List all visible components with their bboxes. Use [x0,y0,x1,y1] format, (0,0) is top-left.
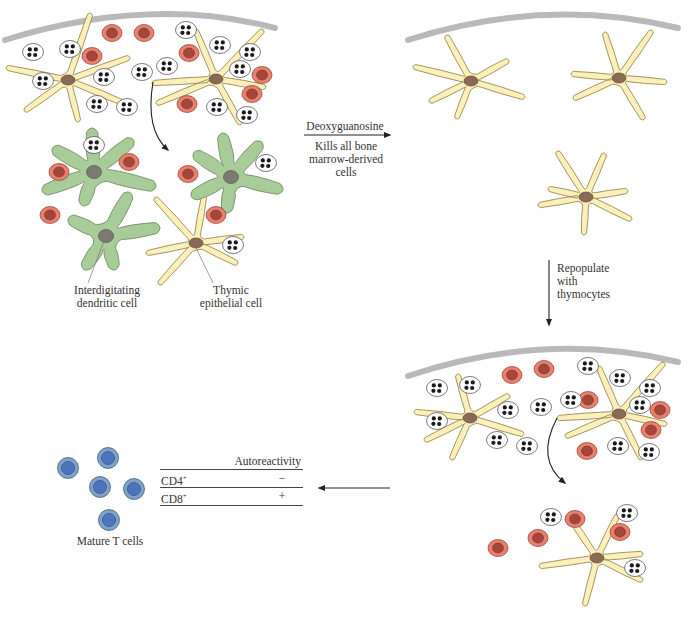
repopulate-note-line1: Repopulate [557,262,647,275]
red-cell [488,540,508,557]
epithelial-cell-label-line1: Thymic [186,284,276,297]
cell-type: CD4+ [160,470,241,487]
thymocyte [617,505,638,522]
autoreactivity-value: + [241,488,303,505]
red-cell [565,511,585,528]
nucleus [579,192,593,202]
thymocyte [578,358,599,375]
thymocyte [237,107,258,124]
thymocyte [640,380,661,397]
thymocyte [517,438,538,455]
dendritic-cell-label-line1: Interdigitating [52,284,162,297]
nucleus [224,171,239,184]
nucleus [87,166,102,179]
thymic-epithelial-cell [538,151,632,235]
thymocyte [630,397,651,414]
thymocyte [608,438,629,455]
thymocyte [639,444,660,461]
thymocyte [427,380,448,397]
red-cell [252,67,272,84]
red-cell [641,422,661,439]
red-cell [610,524,630,541]
thymocyte [541,509,562,526]
red-cell [49,164,69,181]
deoxyguanosine-label: Deoxyguanosine [300,120,390,133]
kills-note-line1: Kills all bone [296,140,396,153]
repopulate-note-line2: with [557,275,647,288]
thymocyte [87,96,108,113]
thymocyte [210,37,231,54]
red-cell [528,530,548,547]
kills-note-line3: cells [296,166,396,179]
mature-t-cell [98,448,119,469]
thymic-epithelial-cell [413,35,525,119]
red-cell [102,25,122,42]
red-cell [502,367,522,384]
nucleus [590,553,604,563]
thymocyte [240,44,261,61]
thymocyte [207,99,228,116]
thymocyte [625,560,646,577]
thymocyte [157,58,178,75]
table-row-cd4: CD4+ − [160,469,303,487]
curved-arrow-bottom [548,418,565,483]
thymocyte [531,399,552,416]
thymocyte [84,137,105,154]
mature-t-cell-group [58,448,145,531]
thymocyte [223,237,244,254]
red-cell [534,361,554,378]
thymocyte [460,377,481,394]
kills-cells-note: Kills all bone marrow-derived cells [296,140,396,179]
red-cell [242,86,262,103]
red-cell [40,207,60,224]
mature-t-cell [90,477,111,498]
repopulate-note: Repopulate with thymocytes [557,262,647,301]
red-cell [179,45,199,62]
nucleus [463,413,477,423]
autoreactivity-value: − [241,470,303,487]
thymocyte [487,432,508,449]
epithelial-cell-label-line2: epithelial cell [186,297,276,310]
kills-note-line2: marrow-derived [296,153,396,166]
nucleus [464,76,478,86]
autoreactivity-header: Autoreactivity [160,453,303,469]
thymic-epithelial-cell [571,30,667,120]
autoreactivity-table: Autoreactivity CD4+ − CD8+ + [160,453,303,506]
red-cell [134,25,154,42]
red-cell [119,154,139,171]
red-cell [177,96,197,113]
cell-type: CD8+ [160,488,241,505]
mature-t-cells-label: Mature T cells [60,535,160,548]
red-cell [577,443,597,460]
epithelial-cell-label: Thymic epithelial cell [186,284,276,310]
thymocyte [176,22,197,39]
nucleus [99,230,114,243]
red-cell [178,166,198,183]
thymocyte [94,69,115,86]
nucleus [209,74,223,84]
dendritic-cell-label: Interdigitating dendritic cell [52,284,162,310]
curved-arrow-top [151,82,168,150]
thymocyte [498,402,519,419]
mature-t-cell [124,479,145,500]
thymocyte [610,370,631,387]
nucleus [61,75,75,85]
thymocyte [117,99,138,116]
red-cell [82,48,102,65]
thymocyte [230,61,251,78]
thymocyte [33,73,54,90]
dendritic-cell-label-line2: dendritic cell [52,297,162,310]
mature-t-cell [58,458,79,479]
red-cell [206,207,226,224]
repopulate-note-line3: thymocytes [557,288,647,301]
thymocyte [132,64,153,81]
red-cell [650,402,670,419]
thymocyte [561,392,582,409]
thymocyte [427,413,448,430]
nucleus [612,73,626,83]
mature-t-cell [99,510,120,531]
nucleus [189,238,203,248]
thymocyte [256,155,277,172]
nucleus [612,409,626,419]
thymocyte [60,41,81,58]
